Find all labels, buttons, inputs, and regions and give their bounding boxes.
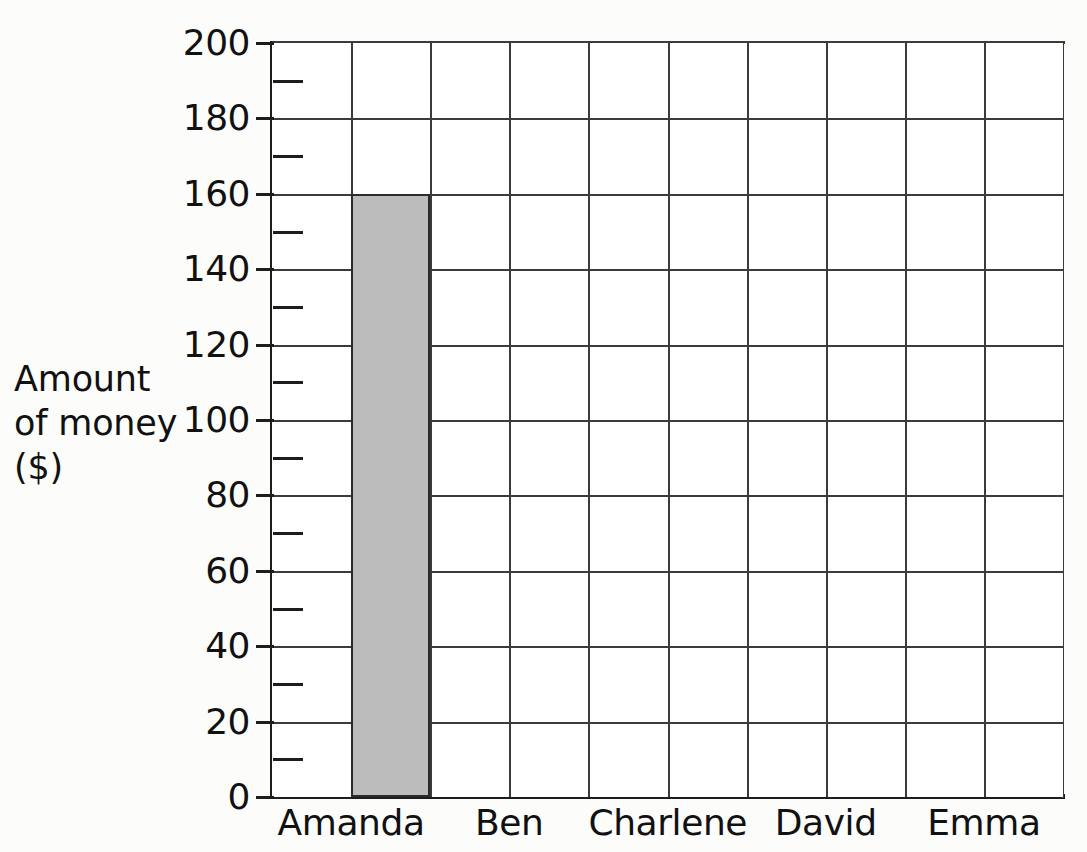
y-tick-major: [256, 42, 274, 45]
y-tick-minor: [273, 532, 303, 535]
y-tick-major: [256, 494, 274, 497]
y-tick-minor: [273, 457, 303, 460]
x-label-ben: Ben: [430, 803, 588, 843]
y-tick-label: 0: [50, 779, 250, 815]
bar-chart-figure: Amount of money ($) 02040608010012014016…: [0, 0, 1087, 852]
y-tick-minor: [273, 306, 303, 309]
y-tick-minor: [273, 683, 303, 686]
gridline-horizontal: [272, 118, 1063, 120]
y-tick-major: [256, 645, 274, 648]
y-tick-minor: [273, 608, 303, 611]
y-tick-label: 80: [50, 477, 250, 513]
y-tick-minor: [273, 155, 303, 158]
y-tick-minor: [273, 758, 303, 761]
y-tick-major: [256, 796, 274, 799]
y-tick-label: 120: [50, 327, 250, 363]
y-tick-label: 180: [50, 100, 250, 136]
y-tick-major: [256, 193, 274, 196]
plot-area: [272, 43, 1063, 797]
y-tick-label: 160: [50, 176, 250, 212]
y-tick-label: 20: [50, 704, 250, 740]
y-tick-major: [256, 268, 274, 271]
x-label-amanda: Amanda: [272, 803, 430, 843]
y-tick-major: [256, 117, 274, 120]
y-tick-label: 40: [50, 628, 250, 664]
y-tick-label: 60: [50, 553, 250, 589]
y-tick-minor: [273, 80, 303, 83]
x-label-emma: Emma: [905, 803, 1063, 843]
y-tick-major: [256, 419, 274, 422]
y-tick-major: [256, 570, 274, 573]
y-tick-major: [256, 344, 274, 347]
y-tick-label: 200: [50, 25, 250, 61]
y-tick-major: [256, 721, 274, 724]
y-tick-minor: [273, 231, 303, 234]
y-tick-label: 140: [50, 251, 250, 287]
x-label-david: David: [747, 803, 905, 843]
x-label-charlene: Charlene: [588, 803, 746, 843]
y-tick-label: 100: [50, 402, 250, 438]
y-tick-minor: [273, 381, 303, 384]
bar-amanda: [351, 194, 430, 797]
